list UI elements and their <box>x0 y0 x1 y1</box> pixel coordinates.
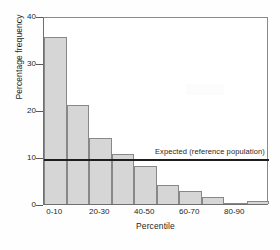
expected-reference-label: Expected (reference population) <box>155 147 265 156</box>
histogram-bar <box>179 191 202 204</box>
y-axis-tick-label: 40 <box>14 12 36 21</box>
y-axis-tick-label: 0 <box>14 200 36 209</box>
x-axis-tick-label: 40-50 <box>134 207 154 216</box>
histogram-bar <box>112 154 135 204</box>
expected-reference-line <box>44 159 269 161</box>
y-axis-tick-label: 20 <box>14 106 36 115</box>
y-axis-tick <box>36 111 43 112</box>
y-axis-title-text: Percentage frequency <box>14 14 24 99</box>
x-axis-tick-label: 0-10 <box>46 207 62 216</box>
histogram-figure: Percentage frequency 010203040 Expected … <box>0 0 280 250</box>
histogram-bar <box>67 105 90 204</box>
y-axis-tick <box>36 17 43 18</box>
x-axis-tick-label: 80-90 <box>224 207 244 216</box>
y-axis-tick-label: 30 <box>14 59 36 68</box>
bar-series <box>44 18 267 204</box>
y-axis-tick-label: 10 <box>14 153 36 162</box>
x-axis-title: Percentile <box>43 221 268 231</box>
scan-artifact <box>186 84 224 95</box>
histogram-bar <box>224 203 247 204</box>
histogram-bar <box>157 185 180 204</box>
x-axis-title-text: Percentile <box>136 221 175 231</box>
x-axis-tick-label: 20-30 <box>89 207 109 216</box>
y-axis-tick <box>36 64 43 65</box>
histogram-bar <box>44 37 67 204</box>
histogram-bar <box>202 197 225 204</box>
histogram-bar <box>247 201 270 204</box>
y-axis-tick <box>36 205 43 206</box>
x-axis-tick-label: 60-70 <box>179 207 199 216</box>
plot-area <box>43 17 268 205</box>
histogram-bar <box>89 138 112 204</box>
y-axis-tick <box>36 158 43 159</box>
histogram-bar <box>134 166 157 204</box>
